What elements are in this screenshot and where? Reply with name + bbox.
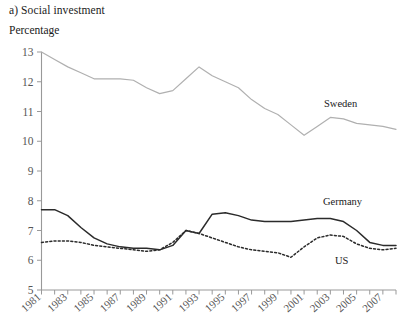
x-axis-tick-label: 1993 xyxy=(176,290,201,314)
series-label-us: US xyxy=(335,255,348,266)
x-axis-tick-label: 1999 xyxy=(255,290,280,314)
svg-text:1997: 1997 xyxy=(229,290,254,314)
y-axis-tick-label: 12 xyxy=(22,76,34,88)
y-axis-tick-label: 11 xyxy=(22,106,33,118)
series-line-germany xyxy=(42,210,397,250)
x-axis-tick-label: 1995 xyxy=(202,290,227,314)
svg-text:2005: 2005 xyxy=(334,290,359,314)
svg-text:2003: 2003 xyxy=(307,290,332,314)
x-axis-tick-label: 2007 xyxy=(360,290,385,314)
x-axis-tick-label: 2005 xyxy=(334,290,359,314)
y-axis-tick-label: 9 xyxy=(28,165,34,177)
y-axis-tick-label: 7 xyxy=(28,225,34,237)
figure-social-investment: a) Social investment Percentage 56789101… xyxy=(0,0,411,335)
x-axis-tick-label: 1987 xyxy=(97,290,122,314)
svg-text:1989: 1989 xyxy=(123,290,148,314)
svg-text:2007: 2007 xyxy=(360,290,385,314)
line-chart-plot: 5678910111213198119831985198719891991199… xyxy=(0,0,411,335)
svg-text:1991: 1991 xyxy=(150,291,174,315)
y-axis-tick-label: 6 xyxy=(28,254,34,266)
svg-text:1981: 1981 xyxy=(18,291,42,315)
y-axis-tick-label: 8 xyxy=(28,195,34,207)
x-axis-tick-label: 1985 xyxy=(71,290,96,314)
x-axis-tick-label: 1991 xyxy=(150,291,174,315)
svg-text:1993: 1993 xyxy=(176,290,201,314)
x-axis-tick-label: 1997 xyxy=(229,290,254,314)
svg-text:1995: 1995 xyxy=(202,290,227,314)
y-axis-tick-label: 10 xyxy=(22,135,34,147)
x-axis-tick-label: 1989 xyxy=(123,290,148,314)
series-label-sweden: Sweden xyxy=(324,98,357,109)
series-line-us xyxy=(42,231,397,258)
svg-text:2001: 2001 xyxy=(281,291,305,315)
svg-text:1987: 1987 xyxy=(97,290,122,314)
x-axis-tick-label: 1981 xyxy=(18,291,42,315)
svg-text:1983: 1983 xyxy=(45,290,70,314)
svg-text:1999: 1999 xyxy=(255,290,280,314)
series-line-sweden xyxy=(42,52,397,135)
series-label-germany: Germany xyxy=(323,196,362,207)
x-axis-tick-label: 1983 xyxy=(45,290,70,314)
x-axis-tick-label: 2001 xyxy=(281,291,305,315)
svg-text:1985: 1985 xyxy=(71,290,96,314)
x-axis-tick-label: 2003 xyxy=(307,290,332,314)
y-axis-tick-label: 13 xyxy=(22,46,34,58)
